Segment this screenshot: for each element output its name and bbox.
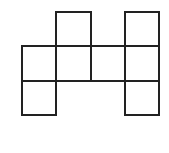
net-square bbox=[124, 45, 160, 81]
net-square bbox=[55, 45, 91, 81]
net-square bbox=[21, 45, 57, 81]
net-square bbox=[21, 80, 57, 116]
net-square bbox=[124, 11, 160, 47]
net-square bbox=[55, 11, 91, 47]
net-square bbox=[90, 45, 126, 81]
net-square bbox=[124, 80, 160, 116]
